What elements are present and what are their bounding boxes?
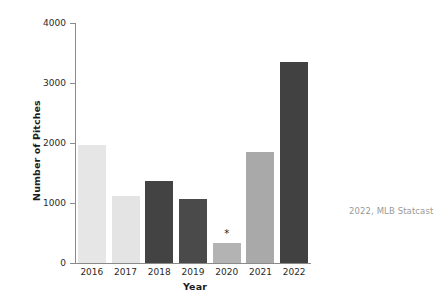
x-tick-label-2018: 2018 [142,267,176,278]
y-tick-label: 2000 [26,138,66,148]
y-tick-mark [70,83,75,84]
y-tick-mark [70,143,75,144]
bar-2019 [179,199,207,263]
bar-chart: Number of Pitches 01000200030004000 2016… [0,0,445,302]
bar-2021 [246,152,274,263]
y-tick-label: 4000 [26,18,66,28]
y-tick-mark [70,263,75,264]
x-tick-label-2016: 2016 [75,267,109,278]
y-tick-mark [70,23,75,24]
x-axis-title: Year [75,281,315,292]
x-tick-label-2021: 2021 [243,267,277,278]
y-tick-mark [70,203,75,204]
source-caption: 2022, MLB Statcast [349,206,433,216]
y-axis-line [75,23,76,264]
x-axis-line [75,263,311,264]
y-tick-label: 0 [26,258,66,268]
x-tick-label-2019: 2019 [176,267,210,278]
bar-2017 [112,196,140,263]
y-tick-label: 3000 [26,78,66,88]
bar-annotation-2020: * [210,229,244,239]
bar-2016 [78,145,106,263]
x-tick-label-2017: 2017 [109,267,143,278]
x-tick-label-2020: 2020 [210,267,244,278]
y-tick-label: 1000 [26,198,66,208]
x-tick-label-2022: 2022 [277,267,311,278]
bar-2020 [213,243,241,263]
bar-2018 [145,181,173,263]
bar-2022 [280,62,308,263]
